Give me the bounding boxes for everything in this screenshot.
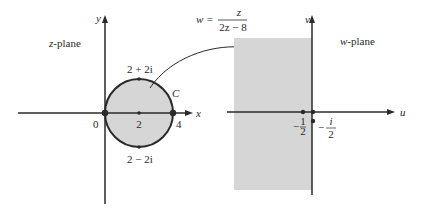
bottom-point-label: 2 − 2i: [127, 153, 153, 165]
formula-numerator: z: [236, 6, 242, 18]
svg-text:i: i: [329, 115, 332, 127]
u-axis-label: u: [400, 106, 406, 118]
point-w-origin: [311, 110, 315, 114]
diagram-canvas: z-plane y x 0 2 4 2 + 2i 2 − 2i C w = z …: [0, 0, 427, 213]
svg-text:2: 2: [328, 128, 334, 140]
point-4: [170, 110, 176, 116]
v-axis-label: v: [305, 13, 310, 25]
point-origin: [102, 110, 108, 116]
point-minus-i-half: [311, 119, 315, 123]
point-bottom: [137, 145, 141, 149]
mapping-formula: w = z 2z − 8: [196, 6, 247, 33]
point-center: [137, 111, 141, 115]
y-axis-label: y: [95, 12, 101, 24]
origin-label: 0: [93, 118, 99, 130]
svg-text:−: −: [318, 121, 324, 133]
z-plane-label: z-plane: [48, 37, 81, 49]
y-axis-arrow-icon: [102, 15, 108, 23]
svg-text:2: 2: [300, 125, 306, 137]
x-axis-arrow-icon: [185, 110, 193, 116]
x-axis-label: x: [195, 107, 201, 119]
svg-text:−: −: [293, 120, 299, 132]
point-minus-half: [301, 110, 305, 114]
mapping-curve: [150, 47, 240, 88]
top-point-label: 2 + 2i: [127, 63, 153, 75]
u-axis-arrow-icon: [387, 109, 395, 115]
minus-i-half-label: − i 2: [318, 115, 336, 140]
w-plane-label: w-plane: [340, 35, 375, 47]
z-plane: z-plane y x 0 2 4 2 + 2i 2 − 2i C: [18, 12, 201, 204]
mapping-arrow: [150, 44, 247, 88]
w-plane: v u w-plane − 1 2 − i 2: [227, 13, 406, 195]
formula-denominator: 2z − 8: [219, 21, 247, 33]
formula-lhs: w =: [196, 13, 214, 25]
half-plane-region: [234, 38, 312, 190]
point-top: [137, 77, 141, 81]
right-point-label: 4: [176, 118, 182, 130]
curve-C-label: C: [172, 87, 180, 99]
center-label: 2: [136, 118, 142, 130]
